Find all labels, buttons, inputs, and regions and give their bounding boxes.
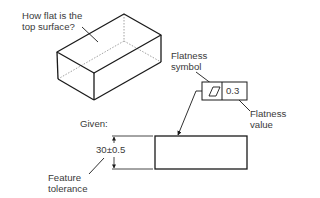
flatness-value-label: Flatness value [250,109,286,130]
tolerance-leader [89,158,104,174]
front-view-rectangle [155,136,247,169]
flatness-value-line1: Flatness [250,109,286,120]
question-leader [82,27,98,42]
question-label: How flat is the top surface? [22,11,82,32]
flatness-value-line2: value [250,120,286,131]
feature-tolerance-label: Feature tolerance [48,173,87,194]
feature-control-frame [202,82,247,100]
tolerance-value: 0.3 [226,85,239,96]
feature-tolerance-line2: tolerance [48,184,87,195]
flatness-symbol-line1: Flatness [171,51,207,62]
frame-to-surface-leader [178,91,202,135]
flatness-symbol-line2: symbol [171,62,207,73]
question-line2: top surface? [22,22,82,33]
dimension-text: 30±0.5 [96,145,125,156]
feature-tolerance-line1: Feature [48,173,87,184]
question-line1: How flat is the [22,11,82,22]
given-label: Given: [80,119,108,130]
value-leader [239,100,250,111]
flatness-symbol-label: Flatness symbol [171,51,207,72]
